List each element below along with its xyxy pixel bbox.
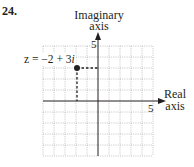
complex-plane-chart — [0, 0, 194, 167]
x-axis-label-line2: axis — [164, 100, 186, 112]
y-tick-label: 5 — [91, 38, 97, 50]
point-label: z = −2 + 3i — [23, 53, 76, 65]
projection-lines — [77, 68, 98, 101]
x-tick-label: 5 — [148, 102, 154, 114]
data-point — [74, 65, 80, 71]
x-axis-label: Real axis — [164, 88, 186, 112]
